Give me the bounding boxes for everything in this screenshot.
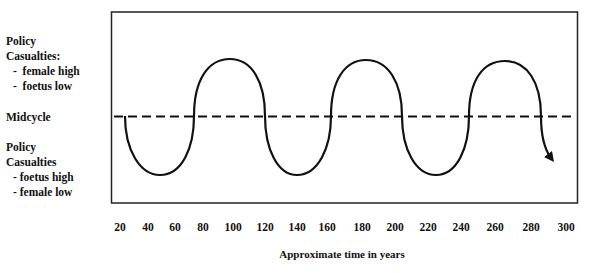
x-tick-label: 220 [419,221,436,233]
x-tick-label: 140 [288,221,305,233]
x-tick-label: 60 [169,221,181,233]
x-tick-label: 260 [486,221,503,233]
x-tick-label: 20 [114,221,126,233]
x-tick-label: 100 [224,221,241,233]
x-tick-label: 80 [197,221,209,233]
x-tick-label: 120 [256,221,273,233]
x-tick-label: 280 [522,221,539,233]
plot-frame [112,12,578,203]
x-tick-label: 240 [452,221,469,233]
x-axis-title: Approximate time in years [279,248,404,260]
x-tick-label: 300 [557,221,574,233]
x-tick-label: 180 [353,221,370,233]
x-tick-label: 40 [142,221,154,233]
x-tick-label: 200 [386,221,403,233]
x-tick-label: 160 [318,221,335,233]
